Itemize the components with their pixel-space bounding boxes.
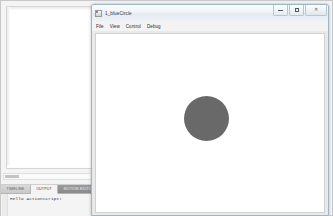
bottom-dock-panel: TIMELINE OUTPUT MOTION EDITOR Hello Acti… <box>1 184 100 216</box>
maximize-icon <box>295 8 299 12</box>
output-panel-body[interactable]: Hello ActionScript! <box>1 194 100 216</box>
flash-player-icon <box>95 10 102 17</box>
tab-timeline-label: TIMELINE <box>7 187 25 191</box>
output-gutter <box>2 194 8 216</box>
flash-player-window[interactable]: 1_blueCircle ✕ File View Control Debug <box>91 4 329 216</box>
tab-output-label: OUTPUT <box>36 187 52 191</box>
menu-item-file[interactable]: File <box>96 24 104 29</box>
tab-timeline[interactable]: TIMELINE <box>1 185 31 194</box>
tab-motion-editor-label: MOTION EDITOR <box>64 187 95 191</box>
stage-container <box>92 31 328 215</box>
player-stage[interactable] <box>95 33 325 213</box>
horizontal-scrollbar[interactable] <box>3 173 98 180</box>
output-message: Hello ActionScript! <box>10 196 62 201</box>
close-button[interactable]: ✕ <box>305 5 327 16</box>
canvas-left-shadow <box>7 7 10 165</box>
gray-circle <box>184 96 229 141</box>
titlebar[interactable]: 1_blueCircle ✕ <box>92 5 328 21</box>
minimize-button[interactable] <box>273 5 288 16</box>
menu-item-view[interactable]: View <box>110 24 120 29</box>
menu-item-debug[interactable]: Debug <box>147 24 161 29</box>
minimize-icon <box>278 10 283 11</box>
horizontal-scrollbar-thumb[interactable] <box>5 175 19 178</box>
menu-item-control[interactable]: Control <box>126 24 141 29</box>
close-icon: ✕ <box>314 8 318 13</box>
window-title: 1_blueCircle <box>105 11 132 16</box>
panel-tab-strip: TIMELINE OUTPUT MOTION EDITOR <box>1 185 100 194</box>
tab-output[interactable]: OUTPUT <box>31 185 58 194</box>
window-controls: ✕ <box>272 5 327 18</box>
maximize-button[interactable] <box>289 5 304 16</box>
